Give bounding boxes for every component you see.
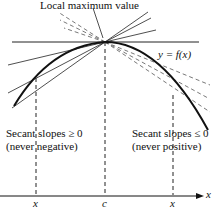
left-label-1: Secant slopes ≥ 0 xyxy=(6,127,83,139)
arrow-icon xyxy=(196,193,204,199)
right-secants-upper xyxy=(105,12,156,42)
curve-label: y = f(x) xyxy=(158,48,191,60)
right-label-2: (never positive) xyxy=(132,140,201,152)
vertical-guides xyxy=(36,42,173,195)
title-label: Local maximum value xyxy=(40,0,139,11)
left-label-2: (never negative) xyxy=(6,140,78,152)
tick-x-left: x xyxy=(33,197,38,209)
tick-c: c xyxy=(102,197,107,209)
diagram: Local maximum value y = f(x) Secant slop… xyxy=(0,0,218,209)
axis-label: x xyxy=(206,188,211,200)
left-secants xyxy=(8,42,105,108)
tick-x-right: x xyxy=(170,197,175,209)
diagram-graphics xyxy=(0,0,218,209)
pointer-line xyxy=(93,8,103,38)
right-label-1: Secant slopes ≤ 0 xyxy=(132,127,209,139)
